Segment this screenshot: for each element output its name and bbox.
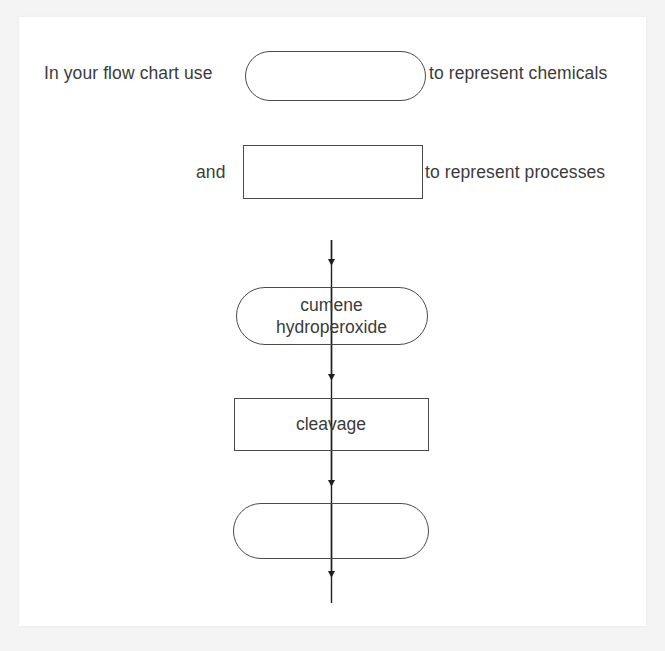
legend-chemical-suffix-text: to represent chemicals xyxy=(429,63,607,84)
legend-process-prefix-text: and xyxy=(196,162,226,183)
legend-process-suffix-text: to represent processes xyxy=(425,162,605,183)
legend-process-shape xyxy=(243,145,423,199)
legend-chemical-shape xyxy=(245,51,426,101)
node-process-label: cleavage xyxy=(234,413,428,435)
legend-chemical-prefix-text: In your flow chart use xyxy=(44,63,213,84)
node-chemical-out-shape xyxy=(233,503,429,559)
node-chemical-in-label-line1: cumene xyxy=(236,294,427,316)
node-chemical-in-label-line2: hydroperoxide xyxy=(236,316,427,338)
node-chemical-in-label: cumene hydroperoxide xyxy=(236,294,427,338)
